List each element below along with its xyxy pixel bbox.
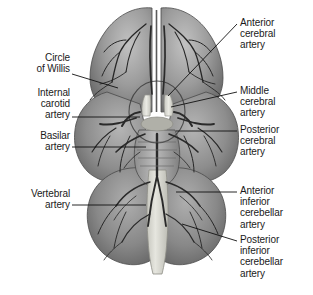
label-vertebral-artery: Vertebral artery xyxy=(6,188,70,210)
brain-artery-diagram: Circle of WillisInternal carotid arteryB… xyxy=(0,0,313,295)
label-internal-carotid: Internal carotid artery xyxy=(6,87,70,121)
label-posterior-cerebral: Posterior cerebral artery xyxy=(240,124,310,158)
label-posterior-inferior-cerebellar: Posterior inferior cerebellar artery xyxy=(240,234,310,279)
optic-chiasm xyxy=(141,117,173,131)
label-circle-of-willis: Circle of Willis xyxy=(12,52,70,74)
label-anterior-cerebral: Anterior cerebral artery xyxy=(240,17,310,51)
label-anterior-inferior-cerebellar: Anterior inferior cerebellar artery xyxy=(240,185,310,230)
label-basilar-artery: Basilar artery xyxy=(10,130,70,152)
label-middle-cerebral: Middle cerebral artery xyxy=(240,85,310,119)
